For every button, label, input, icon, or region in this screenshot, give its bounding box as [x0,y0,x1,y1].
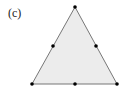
midpoint-bottom-edge-node [73,82,77,86]
triangle-shape [32,7,117,84]
vertex-bottom-left-node [30,82,34,86]
vertex-bottom-right-node [115,82,119,86]
midpoint-right-edge-node [94,44,98,48]
midpoint-left-edge-node [51,44,55,48]
triangle-diagram [0,0,125,89]
vertex-top-node [73,5,77,9]
